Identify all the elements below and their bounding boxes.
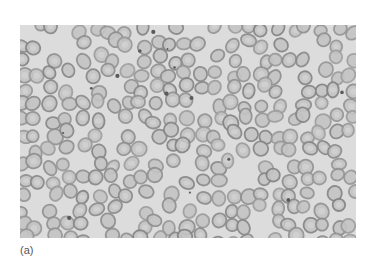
red-blood-cells [20, 25, 356, 238]
blood-smear-micrograph [20, 25, 356, 238]
figure-caption-label: (a) [20, 244, 33, 256]
